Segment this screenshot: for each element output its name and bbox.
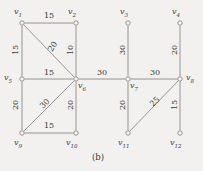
figure-caption: (b) [92,152,104,162]
vertex-label-v2: v2 [68,8,76,18]
vertex-label-v3: v3 [120,8,128,18]
edge-weight-v4-v8: 20 [171,45,179,55]
graph-node [126,131,130,135]
vertex-label-v1: v1 [14,8,22,18]
vertex-subscript: 2 [73,12,77,18]
edge-weight-v1-v5: 15 [12,45,20,55]
graph-node [20,131,24,135]
vertex-subscript: 3 [125,12,129,18]
edge-weight-v5-v6: 15 [44,69,54,77]
edge-weight-v6-v10: 20 [67,100,75,110]
graph-node [20,77,24,81]
edge-weight-v2-v6: 10 [67,45,75,55]
graph-node [74,21,78,25]
graph-node [178,131,182,135]
graph-node [178,77,182,81]
vertex-label-v5: v5 [4,74,12,84]
graph-node [74,131,78,135]
edge-weight-v5-v9: 20 [12,100,20,110]
graph-node [178,21,182,25]
vertex-subscript: 10 [71,143,78,149]
vertex-subscript: 4 [177,12,181,18]
edge-weight-v7-v8: 30 [150,69,160,77]
vertex-subscript: 12 [175,143,182,149]
vertex-label-v4: v4 [172,8,180,18]
edge-weight-v3-v7: 30 [119,45,127,55]
edge-weight-v9-v10: 15 [44,122,54,130]
vertex-label-v7: v7 [130,82,138,92]
vertex-label-v8: v8 [186,74,194,84]
vertex-label-v11: v11 [118,139,130,149]
vertex-label-v6: v6 [78,82,86,92]
edge-weight-v6-v7: 30 [97,69,107,77]
vertex-subscript: 11 [123,143,130,149]
graph-node [126,21,130,25]
graph-node [20,21,24,25]
vertex-label-v9: v9 [14,139,22,149]
edge-weight-v8-v12: 15 [171,100,179,110]
vertex-subscript: 1 [19,12,23,18]
vertex-subscript: 6 [83,86,87,92]
edge-weight-v7-v11: 20 [119,100,127,110]
vertex-subscript: 8 [191,78,195,84]
vertex-label-v10: v10 [66,139,78,149]
vertex-label-v12: v12 [170,139,182,149]
vertex-subscript: 5 [9,78,13,84]
graph-figure: v1v2v3v4v5v6v7v8v9v10v11v12 151520101520… [0,0,203,171]
vertex-subscript: 9 [19,143,23,149]
edge-weight-v1-v2: 15 [44,12,54,20]
edge-layer [22,23,180,133]
node-layer [20,21,182,135]
vertex-subscript: 7 [135,86,139,92]
